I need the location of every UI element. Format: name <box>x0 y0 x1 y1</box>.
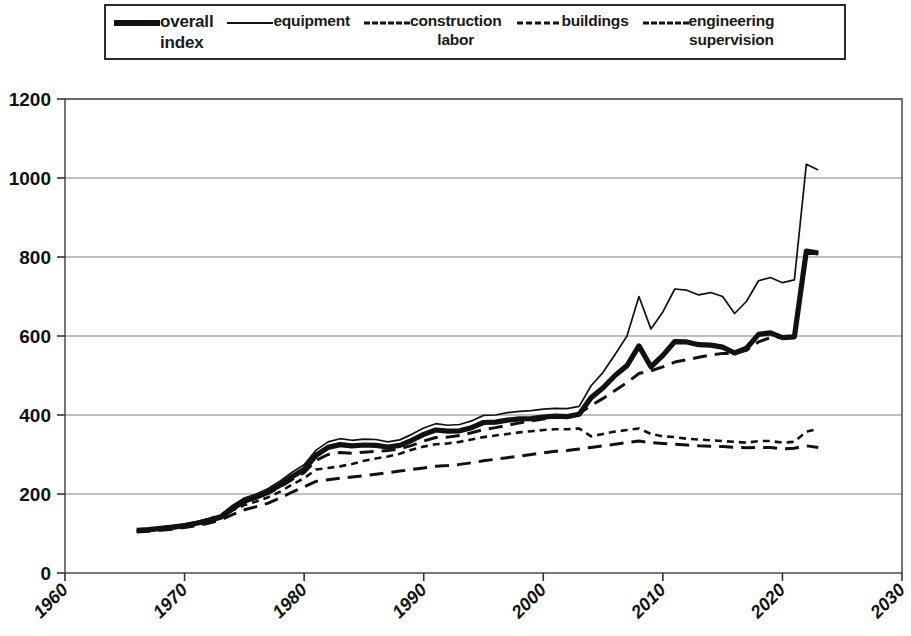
y-axis-tick-label: 800 <box>19 247 51 268</box>
line-shortdash-icon <box>515 15 561 31</box>
y-axis-tick-label: 0 <box>40 563 51 584</box>
x-axis-tick-label: 2020 <box>746 580 789 623</box>
series-line-overall-index <box>137 251 819 530</box>
legend-label-engineering-supervision: engineering supervision <box>689 11 775 49</box>
line-longdash-icon <box>364 15 410 31</box>
chart-plot-area: 020040060080010001200 196019701980199020… <box>0 60 911 636</box>
series-line-engineering-supervision <box>137 441 819 532</box>
x-axis-tick-label: 1990 <box>388 580 430 622</box>
x-axis-tick-label: 2010 <box>627 580 670 623</box>
data-series-group <box>137 164 819 532</box>
chart-legend: overall index equipment construction lab… <box>104 4 846 60</box>
legend-label-construction-labor: construction labor <box>410 11 501 49</box>
line-thin-icon <box>227 15 273 31</box>
x-axis-tick-label: 2030 <box>866 580 909 623</box>
line-thick-icon <box>114 15 160 31</box>
x-axis-tick-label: 2000 <box>507 580 550 623</box>
legend-item-construction-labor: construction labor <box>364 11 501 49</box>
y-axis-ticks: 020040060080010001200 <box>9 89 65 584</box>
legend-item-overall-index: overall index <box>114 11 213 53</box>
series-line-buildings <box>137 428 819 531</box>
legend-item-equipment: equipment <box>227 11 350 31</box>
legend-item-buildings: buildings <box>515 11 628 31</box>
y-axis-tick-label: 1200 <box>9 89 51 110</box>
x-axis-ticks: 19601970198019902000201020202030 <box>29 573 908 623</box>
legend-label-equipment: equipment <box>273 11 350 30</box>
y-axis-tick-label: 400 <box>19 405 51 426</box>
y-axis-tick-label: 1000 <box>9 168 51 189</box>
legend-label-buildings: buildings <box>561 11 628 30</box>
line-longdash2-icon <box>643 15 689 31</box>
legend-item-engineering-supervision: engineering supervision <box>643 11 775 49</box>
line-chart: 020040060080010001200 196019701980199020… <box>0 60 911 636</box>
x-axis-tick-label: 1970 <box>149 580 191 622</box>
x-axis-tick-label: 1960 <box>29 580 71 622</box>
y-axis-tick-label: 200 <box>19 484 51 505</box>
y-axis-tick-label: 600 <box>19 326 51 347</box>
legend-label-overall-index: overall index <box>160 11 213 53</box>
x-axis-tick-label: 1980 <box>269 580 311 622</box>
